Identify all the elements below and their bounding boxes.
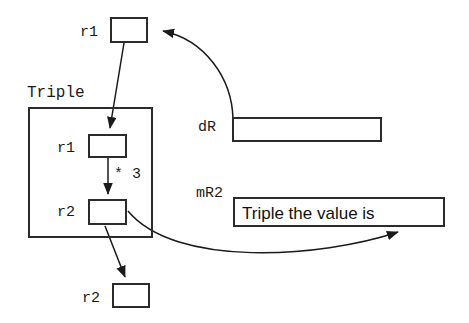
arrow-dr-to-top-r1 (163, 31, 233, 119)
triple-container-title: Triple (27, 86, 85, 101)
mr2-value: Triple the value is (242, 205, 375, 222)
inner-r2-box[interactable] (88, 199, 127, 225)
inner-r2-label: r2 (57, 205, 75, 220)
mr2-box[interactable]: Triple the value is (233, 197, 445, 227)
bottom-r2-box[interactable] (112, 283, 150, 308)
multiply-annotation: * 3 (114, 167, 141, 182)
dr-box[interactable] (232, 117, 382, 142)
diagram-canvas: r1 Triple r1 * 3 r2 r2 dR mR2 Triple the… (0, 0, 469, 323)
top-r1-label: r1 (80, 25, 98, 40)
mr2-label: mR2 (196, 186, 223, 201)
bottom-r2-label: r2 (82, 291, 100, 306)
top-r1-box[interactable] (110, 17, 148, 43)
inner-r1-box[interactable] (88, 134, 127, 158)
dr-label: dR (198, 120, 216, 135)
inner-r1-label: r1 (57, 141, 75, 156)
